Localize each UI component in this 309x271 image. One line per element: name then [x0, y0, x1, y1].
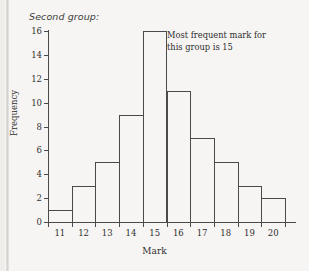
y-tick-label-wrap: 4: [12, 174, 42, 175]
x-tick: [214, 222, 215, 227]
x-tick-label: 13: [95, 229, 119, 238]
x-axis-line: [48, 222, 296, 223]
x-tick-label: 12: [72, 229, 96, 238]
y-tick-label: 8: [16, 123, 42, 132]
y-tick-label: 14: [16, 51, 42, 60]
chart-page: Second group: 0246810121416 111213141516…: [0, 0, 309, 271]
x-tick: [143, 222, 144, 227]
y-tick-label: 16: [16, 27, 42, 36]
y-tick: [44, 31, 49, 32]
x-tick: [261, 222, 262, 227]
annotation-line-2: this group is 15: [167, 41, 301, 53]
y-tick: [44, 198, 49, 199]
x-tick-label: 17: [190, 229, 214, 238]
y-tick-label-wrap: 12: [12, 79, 42, 80]
x-tick-label: 11: [48, 229, 72, 238]
x-tick-label: 15: [143, 229, 167, 238]
x-tick-label: 14: [119, 229, 143, 238]
histogram-bar: [261, 198, 286, 222]
y-tick-label: 10: [16, 99, 42, 108]
y-tick-label-wrap: 6: [12, 150, 42, 151]
histogram-bar: [190, 138, 215, 222]
x-tick-label: 16: [166, 229, 190, 238]
y-tick-label: 6: [16, 146, 42, 155]
x-tick: [167, 222, 168, 227]
histogram-bar: [95, 162, 120, 222]
histogram-bar: [72, 186, 97, 222]
x-tick: [95, 222, 96, 227]
y-tick-label: 12: [16, 75, 42, 84]
x-tick: [119, 222, 120, 227]
annotation-line-1: Most frequent mark for: [167, 29, 301, 41]
x-tick-label: 20: [261, 229, 285, 238]
x-tick: [190, 222, 191, 227]
y-tick: [44, 127, 49, 128]
y-tick: [44, 55, 49, 56]
x-tick: [72, 222, 73, 227]
y-tick: [44, 103, 49, 104]
y-tick-label: 0: [16, 218, 42, 227]
x-tick-label: 18: [214, 229, 238, 238]
y-tick: [44, 79, 49, 80]
histogram-bar: [48, 210, 73, 222]
histogram-bar: [214, 162, 239, 222]
histogram-bar: [238, 186, 263, 222]
x-tick: [48, 222, 49, 227]
x-tick: [238, 222, 239, 227]
histogram-bar: [167, 91, 192, 222]
y-tick-label-wrap: 0: [12, 222, 42, 223]
histogram-bar: [143, 31, 168, 222]
y-tick-label-wrap: 16: [12, 31, 42, 32]
x-axis-title: Mark: [0, 246, 309, 256]
x-tick: [285, 222, 286, 227]
y-tick-label: 4: [16, 170, 42, 179]
chart-annotation: Most frequent mark for this group is 15: [167, 29, 301, 53]
y-tick: [44, 174, 49, 175]
x-tick-label: 19: [237, 229, 261, 238]
y-axis-title: Frequency: [9, 83, 19, 143]
y-tick: [44, 150, 49, 151]
y-tick-label-wrap: 14: [12, 55, 42, 56]
y-tick-label: 2: [16, 194, 42, 203]
y-tick-label-wrap: 2: [12, 198, 42, 199]
histogram-bar: [119, 115, 144, 222]
